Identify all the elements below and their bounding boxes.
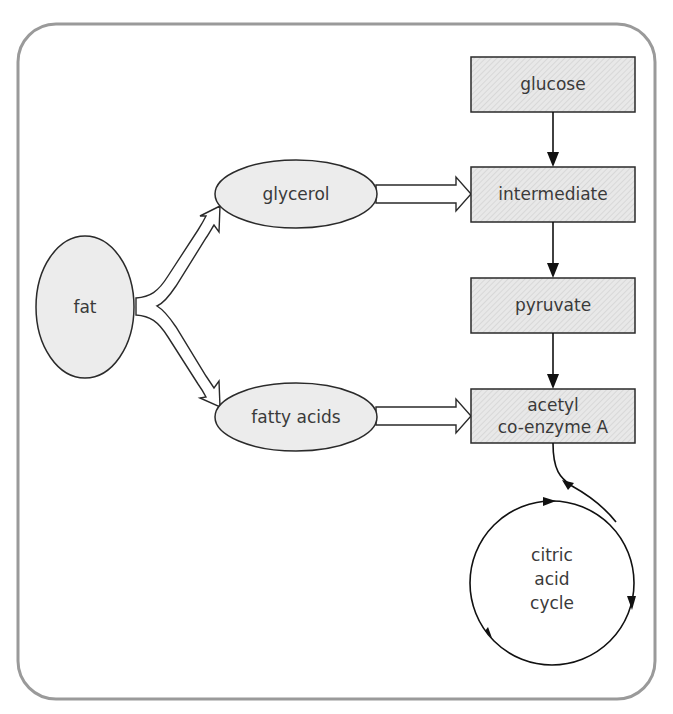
node-acetyl-label-line1: acetyl [527, 395, 579, 415]
metabolism-diagram: fat glycerol fatty acids glucose interme… [0, 0, 673, 714]
node-pyruvate: pyruvate [471, 278, 635, 333]
cycle-label-line3: cycle [530, 593, 574, 613]
node-acetyl-coa: acetyl co-enzyme A [471, 389, 635, 443]
node-fatty-acids: fatty acids [215, 383, 377, 451]
node-fat: fat [36, 236, 134, 378]
node-fat-label: fat [73, 297, 96, 317]
cycle-label-line1: citric [531, 545, 573, 565]
cycle-label-line2: acid [534, 569, 569, 589]
node-pyruvate-label: pyruvate [515, 295, 591, 315]
node-fatty-acids-label: fatty acids [251, 407, 340, 427]
node-glycerol-label: glycerol [262, 184, 329, 204]
node-intermediate: intermediate [471, 167, 635, 222]
node-glycerol: glycerol [215, 160, 377, 228]
node-intermediate-label: intermediate [498, 184, 607, 204]
node-glucose: glucose [471, 57, 635, 112]
node-glucose-label: glucose [520, 74, 585, 94]
node-acetyl-label-line2: co-enzyme A [498, 417, 609, 437]
